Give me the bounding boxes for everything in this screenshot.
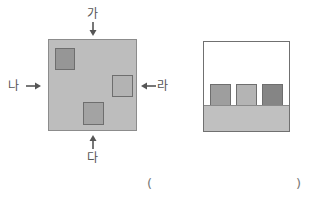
front-view-base xyxy=(204,105,289,131)
answer-value[interactable] xyxy=(160,176,290,192)
label-ga: 가 xyxy=(87,8,98,20)
front-block-right xyxy=(262,84,283,106)
front-view-diagram xyxy=(203,41,290,132)
label-ra: 라 xyxy=(157,80,168,92)
front-block-middle xyxy=(236,84,257,106)
arrow-left-icon xyxy=(141,81,157,91)
label-na: 나 xyxy=(8,80,19,92)
close-paren: ) xyxy=(296,176,301,191)
arrow-up-icon xyxy=(88,135,98,150)
arrow-right-icon xyxy=(26,81,42,91)
label-da: 다 xyxy=(87,152,98,164)
block-top-left xyxy=(55,48,75,70)
open-paren: ( xyxy=(147,176,152,191)
arrow-down-icon xyxy=(88,22,98,37)
block-bottom xyxy=(83,102,104,125)
board-top-view xyxy=(48,39,137,131)
block-right xyxy=(112,75,133,97)
front-block-left xyxy=(210,84,231,106)
